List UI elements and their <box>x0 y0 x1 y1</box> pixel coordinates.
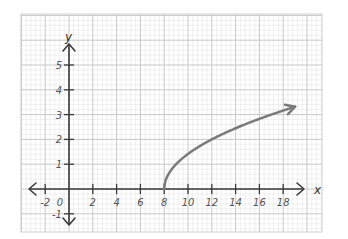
x-tick-label: 14 <box>229 197 242 208</box>
y-tick-label: 3 <box>56 110 62 121</box>
x-tick-label: 6 <box>137 197 143 208</box>
x-tick-label: 10 <box>182 197 195 208</box>
y-axis-label: y <box>64 30 73 44</box>
y-tick-label: 4 <box>56 85 62 96</box>
x-axis-label: x <box>313 183 322 197</box>
curve-sqrt <box>164 107 295 189</box>
y-tick-label: 1 <box>56 159 62 170</box>
x-tick-label: 8 <box>161 197 167 208</box>
origin-label: 0 <box>57 197 63 208</box>
x-tick-label: 16 <box>253 197 266 208</box>
y-tick-label: 2 <box>56 134 62 145</box>
x-tick-label: 2 <box>90 197 96 208</box>
x-tick-label: 12 <box>205 197 218 208</box>
y-tick-label: -1 <box>52 209 62 220</box>
graph: -224681012141618-1123450 x y <box>0 0 348 239</box>
y-tick-label: 5 <box>56 60 62 71</box>
x-tick-label: 18 <box>277 197 290 208</box>
x-tick-label: 4 <box>113 197 119 208</box>
x-tick-label: -2 <box>40 197 50 208</box>
